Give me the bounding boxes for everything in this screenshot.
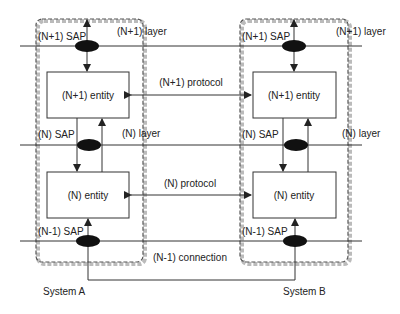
system-a-n-plus-1-entity-label: (N+1) entity <box>62 90 114 101</box>
system-b-n-plus-1-sap-label: (N+1) SAP <box>242 31 290 42</box>
system-a-label: System A <box>43 286 86 297</box>
system-a-n-sap-label: (N) SAP <box>38 129 75 140</box>
system-b-n-minus-1-sap-label: (N-1) SAP <box>242 226 288 237</box>
n-protocol-label: (N) protocol <box>164 178 216 189</box>
n-plus-1-protocol-label: (N+1) protocol <box>159 77 223 88</box>
system-a-n-plus-1-sap-label: (N+1) SAP <box>38 31 86 42</box>
system-a-n-sap-icon <box>77 139 101 151</box>
n-layer-label-a: (N) layer <box>122 128 161 139</box>
n-plus-1-layer-label-a: (N+1) layer <box>117 26 167 37</box>
osi-layer-diagram: (N+1) SAP (N) SAP (N-1) SAP (N+1) entity… <box>0 0 400 314</box>
n-minus-1-connection-label: (N-1) connection <box>153 252 227 263</box>
n-layer-label-b: (N) layer <box>342 128 381 139</box>
system-b-n-plus-1-entity-label: (N+1) entity <box>268 90 320 101</box>
system-a-n-minus-1-sap-label: (N-1) SAP <box>38 226 84 237</box>
system-a-n-entity-label: (N) entity <box>68 190 109 201</box>
system-b-n-sap-icon <box>284 139 308 151</box>
system-b-n-entity-label: (N) entity <box>274 190 315 201</box>
n-plus-1-layer-label-b: (N+1) layer <box>336 26 386 37</box>
system-b-n-sap-label: (N) SAP <box>242 129 279 140</box>
system-b-label: System B <box>283 286 326 297</box>
